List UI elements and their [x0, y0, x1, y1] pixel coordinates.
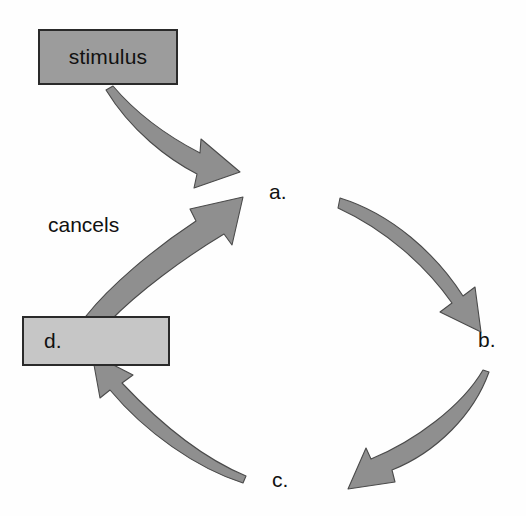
arrow-stimulus-to-a: [106, 86, 240, 188]
node-d-label: d.: [44, 329, 62, 353]
diagram-canvas: stimulus d. a. b. c. cancels: [0, 0, 526, 516]
node-b-label: b.: [478, 328, 496, 352]
node-stimulus-label: stimulus: [69, 45, 148, 69]
node-c-label: c.: [272, 468, 288, 492]
arrow-a-to-b: [338, 198, 481, 332]
node-stimulus[interactable]: stimulus: [38, 29, 178, 85]
arrow-c-to-d: [92, 354, 246, 483]
edge-label-cancels: cancels: [48, 213, 119, 237]
arrow-b-to-c: [348, 370, 489, 489]
node-d[interactable]: d.: [22, 316, 170, 366]
node-a-label: a.: [269, 180, 287, 204]
